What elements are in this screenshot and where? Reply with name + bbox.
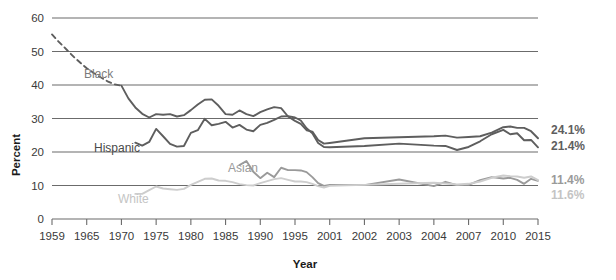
data-series-lines xyxy=(52,34,538,193)
end-label-114: 11.4% xyxy=(551,173,585,187)
end-label-214: 21.4% xyxy=(551,139,585,153)
x-tick-label: 1995 xyxy=(282,230,308,242)
x-tick-label: 2007 xyxy=(456,230,482,242)
series-line-hispanic xyxy=(135,116,538,150)
chart-container: 0102030405060 19591965197019751980198519… xyxy=(0,0,616,280)
x-tick-label: 1990 xyxy=(247,230,273,242)
end-label-241: 24.1% xyxy=(551,123,585,137)
series-line-asian xyxy=(239,161,538,186)
x-axis-tickmarks xyxy=(52,219,538,225)
x-axis-title: Year xyxy=(293,258,318,270)
series-line-black xyxy=(121,86,538,144)
x-tick-label: 2002 xyxy=(352,230,378,242)
x-tick-label: 1985 xyxy=(213,230,239,242)
x-axis-tick-labels: 1959196519701975198019851990199520012002… xyxy=(39,230,551,242)
x-tick-label: 2004 xyxy=(421,230,447,242)
series-end-value-labels: 24.1%21.4%11.4%11.6% xyxy=(551,123,585,202)
y-tick-label: 60 xyxy=(31,12,44,24)
series-label-white: White xyxy=(118,192,149,206)
y-axis-title: Percent xyxy=(10,134,22,176)
x-tick-label: 1980 xyxy=(178,230,204,242)
x-tick-label: 2001 xyxy=(317,230,343,242)
series-label-black: Black xyxy=(84,67,114,81)
series-label-asian: Asian xyxy=(228,161,258,175)
y-tick-label: 0 xyxy=(38,213,44,225)
x-tick-label: 2010 xyxy=(490,230,516,242)
x-tick-label: 1970 xyxy=(109,230,135,242)
x-tick-label: 1959 xyxy=(39,230,65,242)
y-axis-tick-labels: 0102030405060 xyxy=(31,12,44,225)
series-label-hispanic: Hispanic xyxy=(94,141,140,155)
y-tick-label: 40 xyxy=(31,79,44,91)
y-tick-label: 20 xyxy=(31,146,44,158)
y-tick-label: 10 xyxy=(31,180,44,192)
line-chart-svg: 0102030405060 19591965197019751980198519… xyxy=(0,0,616,280)
x-tick-label: 1975 xyxy=(143,230,169,242)
end-label-116: 11.6% xyxy=(551,188,585,202)
x-tick-label: 2015 xyxy=(525,230,551,242)
y-tick-label: 50 xyxy=(31,46,44,58)
x-tick-label: 2003 xyxy=(386,230,412,242)
x-tick-label: 1965 xyxy=(74,230,100,242)
y-tick-label: 30 xyxy=(31,113,44,125)
